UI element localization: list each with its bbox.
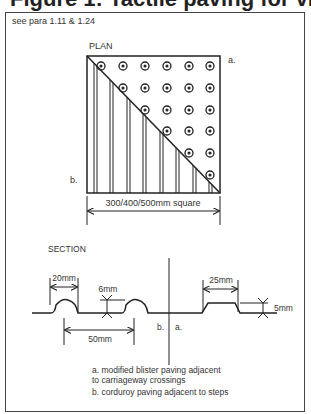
section-heading: SECTION [48,244,86,254]
dim-6mm [100,295,125,318]
dim-50mm-label: 50mm [88,334,112,344]
legend-a-line1: a. modified blister paving adjacent [92,365,221,375]
dim-5mm-label: 5mm [274,303,293,313]
dim-5mm [240,298,268,318]
legend-b: b. corduroy paving adjacent to steps [92,387,229,397]
reference-text: see para 1.11 & 1.24 [12,16,95,26]
diagram-canvas: see para 1.11 & 1.24 PLAN [0,0,311,414]
section-label-a: a. [175,322,182,332]
section-label-b: b. [157,322,164,332]
blister-grid [97,62,214,179]
plan-heading: PLAN [89,41,113,51]
legend-a-line2: to carriageway crossings [92,375,186,385]
dim-20mm [50,278,78,312]
plan-dimension-label: 300/400/500mm square [105,198,200,208]
plan-label-a: a. [228,55,236,65]
dim-20mm-label: 20mm [52,273,76,283]
dim-6mm-label: 6mm [99,284,118,294]
section-profile [32,300,277,313]
plan-square [87,56,220,193]
plan-label-b: b. [70,175,78,185]
dim-25mm-label: 25mm [209,275,233,285]
